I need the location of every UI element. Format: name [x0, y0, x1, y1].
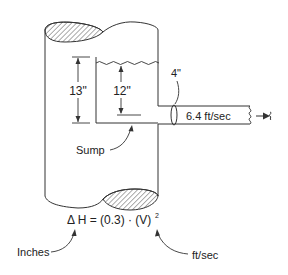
leader-inches — [51, 233, 74, 252]
leader-ftsec-arrowhead — [155, 229, 160, 237]
standpipe — [45, 22, 158, 208]
leader-sump — [110, 128, 131, 150]
leader-sump-arrowhead — [129, 125, 134, 132]
flow-arrow-icon — [256, 112, 271, 120]
leader-inches-arrowhead — [72, 229, 77, 236]
top-hatch — [45, 22, 103, 42]
bottom-hatch — [103, 189, 158, 210]
label-ftsec: ft/sec — [192, 249, 219, 261]
equation-exponent: 2 — [155, 212, 159, 219]
sump-pipe-diagram: 13" 12" 6.4 ft/sec 4" Sump Δ H = (0.3) ·… — [0, 0, 288, 275]
label-4in: 4" — [171, 67, 181, 79]
leader-ftsec — [158, 234, 188, 254]
label-12in: 12" — [113, 84, 131, 98]
label-sump: Sump — [76, 144, 105, 156]
water-surface — [96, 62, 159, 65]
label-13in: 13" — [69, 84, 87, 98]
label-velocity: 6.4 ft/sec — [186, 110, 231, 122]
label-inches: Inches — [17, 246, 50, 258]
equation: Δ H = (0.3) · (V) — [67, 213, 151, 227]
leader-4in — [175, 81, 179, 104]
